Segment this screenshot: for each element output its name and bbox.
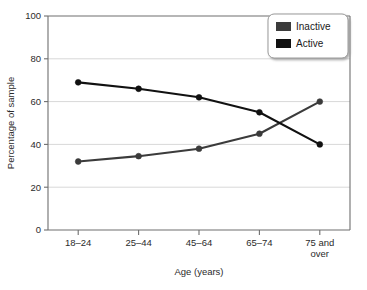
data-point — [136, 86, 142, 92]
data-point — [317, 142, 323, 148]
data-point — [196, 146, 202, 152]
legend-label: Inactive — [296, 21, 331, 32]
legend-swatch — [276, 39, 291, 48]
data-point — [136, 153, 142, 159]
x-axis-tick-label: 25–44 — [125, 237, 151, 248]
y-axis-title: Percentage of sample — [5, 77, 16, 169]
y-axis-tick-label: 100 — [25, 10, 41, 21]
data-point — [257, 109, 263, 115]
data-point — [196, 94, 202, 100]
data-point — [75, 79, 81, 85]
y-axis-tick-label: 60 — [30, 96, 41, 107]
legend-item-active[interactable]: Active — [276, 38, 324, 49]
line-chart: 020406080100 18–2425–4445–6465–7475 ando… — [0, 0, 367, 290]
y-axis-tick-label: 20 — [30, 182, 41, 193]
data-point — [257, 131, 263, 137]
x-axis-tick-label: 65–74 — [246, 237, 272, 248]
data-point — [317, 99, 323, 105]
legend-swatch — [276, 22, 291, 31]
legend-label: Active — [296, 38, 324, 49]
x-axis-tick-label: 18–24 — [65, 237, 91, 248]
y-axis-tick-label: 80 — [30, 53, 41, 64]
y-axis-tick-label: 0 — [36, 224, 41, 235]
legend-item-inactive[interactable]: Inactive — [276, 21, 331, 32]
y-axis-tick-label: 40 — [30, 139, 41, 150]
x-axis-tick-label: 45–64 — [186, 237, 212, 248]
chart-svg: 020406080100 18–2425–4445–6465–7475 ando… — [0, 0, 367, 290]
legend[interactable]: InactiveActive — [268, 14, 348, 58]
data-point — [75, 159, 81, 165]
x-axis-title: Age (years) — [174, 266, 223, 277]
